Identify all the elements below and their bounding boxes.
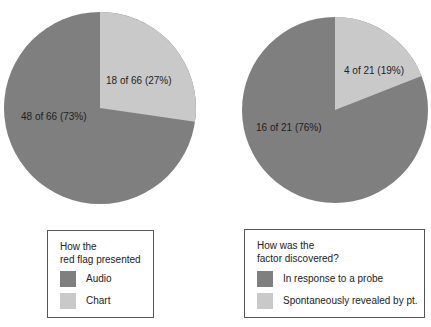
legend-label: Chart	[86, 295, 110, 306]
legend-title-line: red flag presented	[60, 253, 220, 266]
legend-label: Spontaneously revealed by pt.	[283, 295, 418, 306]
legend-title-line: factor discovered?	[257, 252, 417, 265]
legend-title: How was the factor discovered?	[257, 239, 417, 265]
pie-chart-red-flag	[4, 12, 196, 204]
swatch-dark	[257, 271, 273, 287]
legend-factor-discovered: How was the factor discovered? In respon…	[244, 229, 425, 318]
slice-label-chart: 18 of 66 (27%)	[106, 75, 172, 86]
legend-title-line: How the	[60, 240, 220, 253]
slice-label-probe: 16 of 21 (76%)	[256, 122, 322, 133]
swatch-dark	[60, 271, 76, 287]
swatch-light	[60, 293, 76, 309]
legend-label: Audio	[86, 273, 112, 284]
legend-title: How the red flag presented	[60, 240, 220, 266]
slice-label-spontaneous: 4 of 21 (19%)	[344, 65, 404, 76]
legend-label: In response to a probe	[283, 273, 383, 284]
legend-red-flag: How the red flag presented Audio Chart	[47, 230, 154, 318]
slice-label-audio: 48 of 66 (73%)	[21, 111, 87, 122]
pie-slice-chart	[100, 12, 196, 122]
legend-title-line: How was the	[257, 239, 417, 252]
swatch-light	[257, 293, 273, 309]
pie-chart-factor-discovered	[242, 17, 428, 203]
